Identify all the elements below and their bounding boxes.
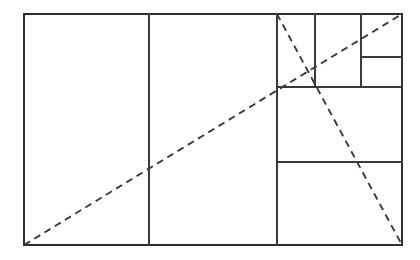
- diagonal-lines: [24, 14, 402, 245]
- counter-diagonal: [277, 14, 402, 245]
- golden-rectangle-diagram: [0, 0, 420, 260]
- figure-canvas: [0, 0, 420, 260]
- subdivision-lines: [149, 14, 402, 245]
- main-diagonal: [24, 14, 402, 245]
